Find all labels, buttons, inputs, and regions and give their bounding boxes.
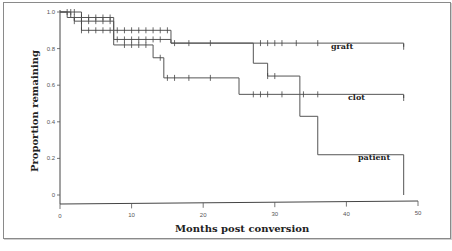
curve-patient: [60, 12, 404, 195]
x-tick-label: 10: [128, 212, 135, 218]
x-tick-label: 0: [58, 213, 62, 219]
km-chart: 00.20.40.60.81.0 01020304050 Months post…: [0, 0, 452, 251]
series-label-clot: clot: [348, 92, 365, 102]
survival-curves: [60, 9, 404, 195]
x-tick-label: 30: [271, 211, 278, 217]
y-axis-title: Proportion remaining: [29, 50, 40, 172]
series-label-graft: graft: [331, 41, 353, 51]
x-tick-label: 40: [343, 211, 350, 217]
y-ticks: 00.20.40.60.81.0: [47, 9, 60, 198]
y-tick-label: 0.2: [47, 155, 56, 161]
x-tick-label: 20: [200, 212, 207, 218]
series-label-patient: patient: [358, 152, 390, 162]
y-tick-label: 0.6: [47, 82, 56, 88]
x-axis: [60, 201, 418, 204]
y-tick-label: 0.4: [47, 119, 56, 125]
y-tick-label: 0.8: [47, 46, 56, 52]
x-tick-label: 50: [415, 210, 422, 216]
y-tick-label: 0: [52, 192, 56, 198]
x-axis-title: Months post conversion: [175, 223, 310, 234]
curve-clot: [60, 12, 404, 98]
y-tick-label: 1.0: [47, 9, 56, 15]
